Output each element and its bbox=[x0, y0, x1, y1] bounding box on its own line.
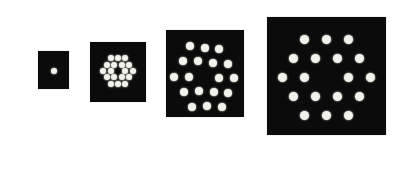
dot bbox=[278, 73, 287, 82]
dot bbox=[100, 68, 106, 74]
dot bbox=[230, 74, 238, 82]
dot bbox=[186, 42, 194, 50]
dot bbox=[300, 73, 309, 82]
dot bbox=[108, 55, 114, 61]
dot bbox=[210, 88, 218, 96]
dot bbox=[333, 54, 342, 63]
dot bbox=[311, 92, 320, 101]
dot bbox=[209, 59, 217, 67]
dot bbox=[119, 62, 125, 68]
dot bbox=[322, 111, 331, 120]
panel-2 bbox=[90, 42, 146, 102]
dot bbox=[126, 62, 132, 68]
dot bbox=[194, 57, 202, 65]
panel-1 bbox=[38, 51, 69, 89]
dot bbox=[344, 35, 353, 44]
dot bbox=[224, 89, 232, 97]
dot bbox=[51, 68, 57, 74]
dot bbox=[195, 87, 203, 95]
dot bbox=[355, 54, 364, 63]
dot bbox=[201, 44, 209, 52]
panel-4 bbox=[267, 17, 386, 135]
dot bbox=[355, 92, 364, 101]
dot bbox=[300, 111, 309, 120]
dot bbox=[122, 81, 128, 87]
dot bbox=[185, 73, 193, 81]
dot bbox=[119, 74, 125, 80]
dot bbox=[322, 35, 331, 44]
dot bbox=[344, 73, 353, 82]
dot bbox=[122, 68, 128, 74]
dot bbox=[130, 68, 136, 74]
dot bbox=[215, 74, 223, 82]
dot bbox=[333, 92, 342, 101]
dot bbox=[179, 57, 187, 65]
dot bbox=[188, 103, 196, 111]
dot bbox=[111, 62, 117, 68]
dot bbox=[122, 55, 128, 61]
dot bbox=[289, 92, 298, 101]
figure bbox=[0, 0, 403, 180]
dot bbox=[366, 73, 375, 82]
dot bbox=[180, 88, 188, 96]
panel-3 bbox=[166, 30, 244, 117]
dot bbox=[344, 111, 353, 120]
dot bbox=[115, 81, 121, 87]
dot bbox=[311, 54, 320, 63]
dot bbox=[108, 68, 114, 74]
dot bbox=[300, 35, 309, 44]
dot bbox=[126, 74, 132, 80]
dot bbox=[289, 54, 298, 63]
dot bbox=[104, 74, 110, 80]
dot bbox=[170, 73, 178, 81]
dot bbox=[215, 45, 223, 53]
dot bbox=[115, 55, 121, 61]
dot bbox=[224, 60, 232, 68]
dot bbox=[111, 74, 117, 80]
dot bbox=[203, 102, 211, 110]
dot bbox=[108, 81, 114, 87]
dot bbox=[104, 62, 110, 68]
dot bbox=[218, 103, 226, 111]
